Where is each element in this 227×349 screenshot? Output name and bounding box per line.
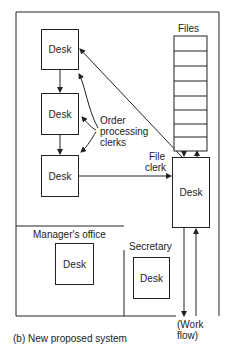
figure-caption: (b) New proposed system <box>13 333 127 344</box>
desk-label: Desk <box>140 273 163 284</box>
desk-file-clerk: Desk <box>172 157 210 228</box>
file-clerk-label-1: File <box>149 151 165 162</box>
desk-order-clerk-2: Desk <box>41 93 79 135</box>
order-clerks-label-3: clerks <box>100 137 126 148</box>
desk-secretary: Desk <box>133 257 170 299</box>
file-clerk-label-2: clerk <box>145 162 166 173</box>
desk-order-clerk-3: Desk <box>41 155 79 197</box>
work-flow-label-1: (Work <box>177 319 203 330</box>
desk-manager: Desk <box>55 243 94 285</box>
desk-label: Desk <box>49 171 72 182</box>
desk-label: Desk <box>180 187 203 198</box>
manager-office-label: Manager's office <box>33 229 106 240</box>
files-label: Files <box>178 23 199 34</box>
work-flow-label-2: flow) <box>177 330 198 341</box>
order-clerks-label-2: processing <box>100 126 148 137</box>
desk-label: Desk <box>63 259 86 270</box>
secretary-label: Secretary <box>129 241 172 252</box>
order-clerks-label-1: Order <box>100 115 126 126</box>
desk-order-clerk-1: Desk <box>41 29 79 70</box>
desk-label: Desk <box>49 109 72 120</box>
desk-label: Desk <box>49 44 72 55</box>
